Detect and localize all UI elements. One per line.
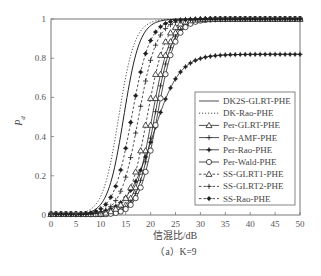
data-point (183, 25, 188, 30)
data-point (188, 60, 193, 65)
data-point (173, 76, 178, 81)
legend-label: SS-GLRT1-PHE (223, 169, 284, 179)
x-tick-label: 35 (221, 219, 231, 229)
data-point (258, 52, 263, 57)
data-point (133, 196, 138, 201)
y-tick-label: 0 (42, 210, 47, 220)
legend-label: Per-Wald-PHE (223, 157, 277, 167)
y-axis-label: Pd (13, 116, 27, 127)
data-point (153, 122, 158, 127)
data-point (128, 120, 133, 125)
y-tick-label: 0.6 (35, 92, 47, 102)
data-point (277, 52, 282, 57)
data-point (158, 52, 164, 57)
data-point (168, 85, 173, 90)
data-point (173, 39, 178, 44)
data-point (123, 195, 129, 200)
data-point (263, 52, 268, 57)
x-tick-label: 30 (196, 219, 206, 229)
data-point (198, 56, 203, 61)
data-point (143, 122, 149, 127)
data-point (118, 167, 123, 172)
detection-probability-chart: 0510152025303540455000.20.40.60.81 Pd 信混… (0, 0, 321, 276)
data-point (233, 52, 238, 57)
y-axis-label-sub: d (19, 116, 27, 120)
data-point (178, 17, 183, 22)
x-tick-label: 50 (296, 219, 306, 229)
data-point (103, 207, 108, 212)
data-point (143, 51, 148, 56)
data-point (213, 53, 218, 58)
data-point (123, 146, 128, 151)
data-point (138, 148, 144, 153)
data-point (123, 175, 128, 180)
legend-marker (206, 159, 211, 164)
x-tick-label: 10 (96, 219, 106, 229)
x-tick-label: 40 (246, 219, 256, 229)
data-point (153, 71, 159, 76)
data-point (248, 52, 253, 57)
data-point (163, 72, 168, 77)
legend-label: Per-GLRT-PHE (223, 120, 280, 130)
data-point (193, 58, 198, 63)
data-point (148, 58, 153, 63)
y-tick-label: 1 (42, 14, 47, 24)
data-point (108, 195, 113, 200)
x-tick-label: 5 (74, 219, 79, 229)
data-point (133, 169, 139, 174)
data-point (158, 110, 163, 115)
x-tick-label: 20 (146, 219, 156, 229)
figure-caption: （a）K=9 (155, 246, 196, 257)
x-tick-label: 15 (121, 219, 131, 229)
data-point (178, 30, 183, 35)
data-point (143, 78, 148, 83)
legend-label: DK2S-GLRT-PHE (223, 96, 291, 106)
data-point (287, 52, 292, 57)
data-point (208, 54, 213, 59)
x-tick-label: 0 (49, 219, 54, 229)
data-point (223, 52, 228, 57)
legend-label: SS-GLRT2-PHE (223, 181, 284, 191)
data-point (282, 52, 287, 57)
legend-label: DK-Rao-PHE (223, 108, 274, 118)
data-point (228, 52, 233, 57)
data-point (143, 169, 148, 174)
x-axis-label: 信混比/dB (153, 230, 198, 241)
data-point (163, 21, 168, 26)
data-point (163, 97, 168, 102)
data-point (253, 52, 258, 57)
data-point (243, 52, 248, 57)
data-point (138, 104, 143, 109)
data-point (148, 38, 153, 43)
data-point (148, 95, 154, 100)
data-point (273, 52, 278, 57)
data-point (163, 39, 169, 44)
data-point (138, 69, 143, 74)
data-point (218, 53, 223, 58)
data-point (128, 202, 133, 207)
y-tick-label: 0.4 (35, 132, 47, 142)
data-point (113, 184, 118, 189)
legend-label: Per-Rao-PHE (223, 145, 273, 155)
y-tick-label: 0.2 (35, 171, 46, 181)
legend-label: SS-Rao-PHE (223, 194, 271, 204)
data-point (148, 148, 153, 153)
data-point (168, 53, 173, 58)
data-point (203, 55, 208, 60)
x-tick-label: 25 (171, 219, 181, 229)
y-tick-label: 0.8 (35, 53, 47, 63)
data-point (168, 30, 174, 35)
data-point (118, 189, 123, 194)
data-point (133, 130, 138, 135)
legend-label: Per-AMF-PHE (223, 133, 278, 143)
data-point (113, 198, 118, 203)
data-point (173, 24, 179, 29)
data-point (292, 52, 297, 57)
data-point (158, 32, 163, 37)
data-point (133, 93, 138, 98)
data-point (268, 52, 273, 57)
data-point (297, 52, 302, 57)
data-point (238, 52, 243, 57)
y-axis-label-main: P (13, 120, 24, 127)
data-point (153, 43, 158, 48)
